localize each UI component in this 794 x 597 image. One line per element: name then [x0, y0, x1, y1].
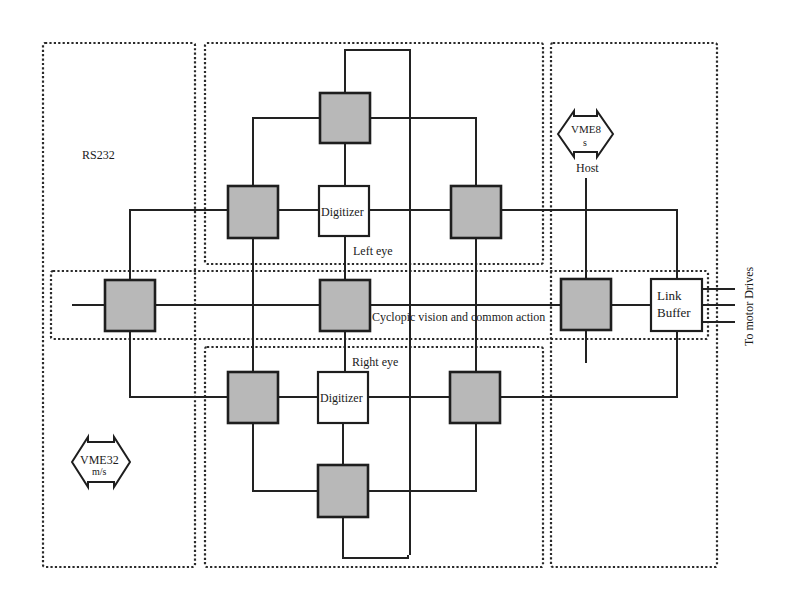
rs232-label: RS232 — [82, 148, 115, 162]
right-digitizer-label: Digitizer — [320, 391, 363, 405]
vme8-bus-icon: VME8 s — [558, 111, 613, 157]
cyclopic-right-node — [561, 279, 611, 330]
link-buffer-label-line1: Link — [657, 288, 682, 303]
left-eye-label: Left eye — [353, 244, 393, 258]
left-eye-top-node — [320, 93, 370, 143]
link-buffer-label-line2: Buffer — [657, 305, 691, 320]
cyclopic-label: Cyclopic vision and common action — [372, 310, 545, 324]
interconnect-wires — [72, 50, 735, 558]
vme32-bus-icon: VME32 m/s — [72, 437, 130, 487]
vme32-label: VME32 — [80, 453, 119, 467]
vme8-label: VME8 — [571, 123, 601, 135]
architecture-diagram: Digitizer Digitizer Link Buffer VME8 s H… — [0, 0, 794, 597]
motor-drives-label: To motor Drives — [742, 267, 756, 346]
cyclopic-center-node — [320, 280, 370, 331]
left-eye-left-node — [228, 186, 278, 238]
cyclopic-left-node — [105, 280, 155, 331]
vme32-sublabel: m/s — [92, 466, 107, 477]
right-eye-bottom-node — [318, 465, 368, 517]
host-label: Host — [576, 161, 599, 175]
left-digitizer-label: Digitizer — [321, 205, 364, 219]
right-eye-right-node — [450, 372, 500, 423]
left-eye-right-node — [451, 186, 501, 238]
right-eye-label: Right eye — [352, 355, 398, 369]
right-eye-left-node — [228, 372, 278, 423]
vme8-sublabel: s — [583, 137, 587, 148]
